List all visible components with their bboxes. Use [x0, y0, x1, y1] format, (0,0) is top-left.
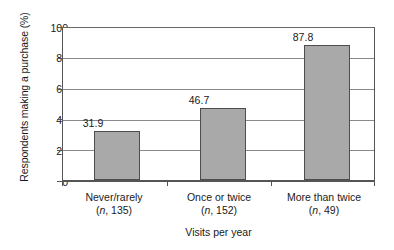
x-category-label-never-rarely: Never/rarely (n, 135) — [54, 191, 174, 216]
bar-never-rarely — [94, 131, 140, 180]
x-category-label-once-or-twice: Once or twice (n, 152) — [159, 191, 279, 216]
x-tick-mark-2 — [271, 181, 272, 186]
x-tick-mark-start — [62, 181, 63, 186]
x-category-name-0: Never/rarely — [85, 191, 142, 203]
n-symbol-2: n — [312, 204, 318, 216]
bar-once-or-twice — [200, 108, 246, 180]
n-value-2: 49 — [324, 204, 336, 216]
bar-more-than-twice — [304, 45, 350, 180]
x-category-n-0: (n, 135) — [54, 204, 174, 217]
x-axis-title: Visits per year — [62, 226, 375, 238]
bar-value-never-rarely: 31.9 — [63, 118, 123, 129]
x-tick-mark-1 — [167, 181, 168, 186]
x-category-name-1: Once or twice — [187, 191, 251, 203]
x-category-n-2: (n, 49) — [264, 204, 384, 217]
x-category-name-2: More than twice — [287, 191, 361, 203]
n-symbol-1: n — [204, 204, 210, 216]
x-tick-mark-end — [374, 181, 375, 186]
bar-chart: Respondents making a purchase (%) 100 80… — [0, 0, 394, 250]
x-category-label-more-than-twice: More than twice (n, 49) — [264, 191, 384, 216]
n-value-0: 135 — [111, 204, 129, 216]
x-axis-line — [62, 181, 375, 182]
n-symbol-0: n — [99, 204, 105, 216]
bar-value-more-than-twice: 87.8 — [273, 32, 333, 43]
n-value-1: 152 — [216, 204, 234, 216]
x-category-n-1: (n, 152) — [159, 204, 279, 217]
bar-value-once-or-twice: 46.7 — [169, 95, 229, 106]
